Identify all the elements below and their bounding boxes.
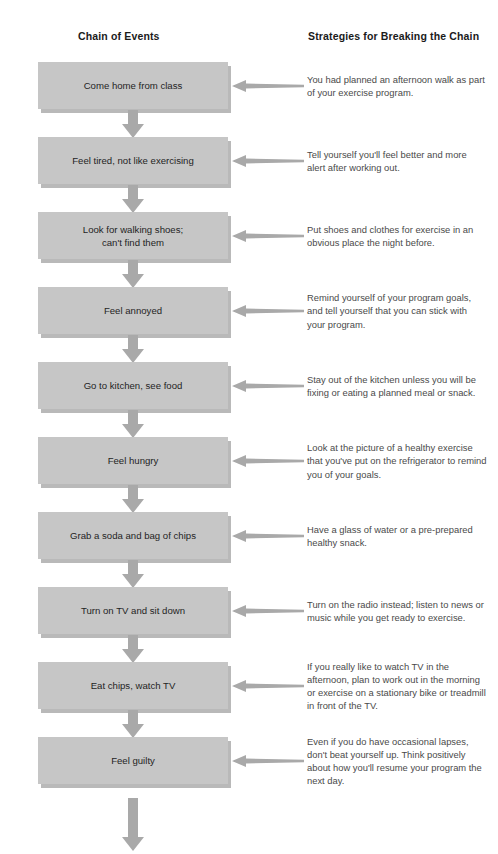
strategy-text: Even if you do have occasional lapses, d… [307, 735, 487, 788]
event-box[interactable]: Turn on TV and sit down [38, 587, 228, 634]
event-box-face: Feel tired, not like exercising [38, 137, 228, 184]
event-box-face: Eat chips, watch TV [38, 662, 228, 709]
arrow-head [122, 349, 144, 363]
flow-down-arrow [117, 260, 149, 288]
column-header-chain-of-events: Chain of Events [78, 30, 160, 42]
flow-row: Feel annoyedRemind yourself of your prog… [0, 287, 498, 362]
event-box[interactable]: Eat chips, watch TV [38, 662, 228, 709]
flow-down-arrow [117, 110, 149, 138]
arrow-stem [128, 485, 138, 500]
arrow-stem [128, 185, 138, 200]
arrow-head [122, 837, 144, 851]
event-box[interactable]: Grab a soda and bag of chips [38, 512, 228, 559]
strategy-text: Put shoes and clothes for exercise in an… [307, 223, 487, 250]
event-box-face: Look for walking shoes; can't find them [38, 212, 228, 259]
event-box-label: Look for walking shoes; can't find them [83, 223, 183, 249]
flow-down-arrow [117, 710, 149, 738]
strategy-text: You had planned an afternoon walk as par… [307, 73, 487, 100]
event-box[interactable]: Feel tired, not like exercising [38, 137, 228, 184]
event-box-label: Go to kitchen, see food [84, 379, 183, 392]
strategy-pointer-arrow [232, 604, 304, 618]
flow-down-arrow [117, 410, 149, 438]
arrow-head [122, 724, 144, 738]
flow-down-arrow [117, 185, 149, 213]
event-box[interactable]: Feel guilty [38, 737, 228, 784]
strategy-pointer-arrow [232, 679, 304, 693]
arrow-stem [128, 110, 138, 125]
flow-down-arrow [117, 335, 149, 363]
strategy-pointer-arrow [232, 154, 304, 168]
flow-row: Eat chips, watch TVIf you really like to… [0, 662, 498, 737]
arrow-head [122, 499, 144, 513]
arrow-head [122, 649, 144, 663]
event-box[interactable]: Look for walking shoes; can't find them [38, 212, 228, 259]
event-box-face: Turn on TV and sit down [38, 587, 228, 634]
arrow-stem [128, 560, 138, 575]
strategy-text: Remind yourself of your program goals, a… [307, 291, 487, 331]
strategy-text: If you really like to watch TV in the af… [307, 660, 487, 713]
event-box-label: Feel guilty [111, 754, 155, 767]
strategy-text: Stay out of the kitchen unless you will … [307, 373, 487, 400]
event-box[interactable]: Come home from class [38, 62, 228, 109]
event-box-face: Feel hungry [38, 437, 228, 484]
arrow-head [122, 199, 144, 213]
flow-down-arrow [117, 635, 149, 663]
strategy-pointer-arrow [232, 454, 304, 468]
event-box-face: Feel guilty [38, 737, 228, 784]
arrow-stem [128, 260, 138, 275]
arrow-head [122, 424, 144, 438]
event-box-face: Come home from class [38, 62, 228, 109]
flow-row: Feel hungryLook at the picture of a heal… [0, 437, 498, 512]
event-box-label: Turn on TV and sit down [81, 604, 185, 617]
flow-row: Come home from classYou had planned an a… [0, 62, 498, 137]
arrow-head [122, 124, 144, 138]
strategy-text: Look at the picture of a healthy exercis… [307, 441, 487, 481]
flow-terminal-arrow [117, 798, 149, 848]
event-box-label: Eat chips, watch TV [91, 679, 176, 692]
arrow-stem [128, 710, 138, 725]
event-box-label: Feel hungry [108, 454, 159, 467]
flow-row: Grab a soda and bag of chipsHave a glass… [0, 512, 498, 587]
arrow-stem [128, 798, 138, 838]
arrow-stem [128, 635, 138, 650]
flow-down-arrow [117, 560, 149, 588]
strategy-pointer-arrow [232, 229, 304, 243]
strategy-pointer-arrow [232, 79, 304, 93]
arrow-stem [128, 410, 138, 425]
arrow-head [122, 574, 144, 588]
event-box-face: Grab a soda and bag of chips [38, 512, 228, 559]
strategy-text: Tell yourself you'll feel better and mor… [307, 148, 487, 175]
event-box[interactable]: Feel annoyed [38, 287, 228, 334]
arrow-head [122, 274, 144, 288]
event-box[interactable]: Feel hungry [38, 437, 228, 484]
flow-row: Turn on TV and sit downTurn on the radio… [0, 587, 498, 662]
event-box-face: Feel annoyed [38, 287, 228, 334]
event-box[interactable]: Go to kitchen, see food [38, 362, 228, 409]
flow-row: Feel guiltyEven if you do have occasiona… [0, 737, 498, 812]
flow-down-arrow [117, 485, 149, 513]
strategy-text: Have a glass of water or a pre-prepared … [307, 523, 487, 550]
arrow-stem [128, 335, 138, 350]
event-box-label: Feel annoyed [104, 304, 162, 317]
event-box-label: Grab a soda and bag of chips [70, 529, 196, 542]
flow-row: Feel tired, not like exercisingTell your… [0, 137, 498, 212]
strategy-pointer-arrow [232, 379, 304, 393]
flow-row: Go to kitchen, see foodStay out of the k… [0, 362, 498, 437]
event-box-label: Come home from class [84, 79, 183, 92]
strategy-pointer-arrow [232, 529, 304, 543]
event-box-label: Feel tired, not like exercising [72, 154, 194, 167]
column-header-strategies: Strategies for Breaking the Chain [308, 30, 479, 42]
strategy-pointer-arrow [232, 754, 304, 768]
strategy-text: Turn on the radio instead; listen to new… [307, 598, 487, 625]
event-box-face: Go to kitchen, see food [38, 362, 228, 409]
strategy-pointer-arrow [232, 304, 304, 318]
flow-row: Look for walking shoes; can't find themP… [0, 212, 498, 287]
